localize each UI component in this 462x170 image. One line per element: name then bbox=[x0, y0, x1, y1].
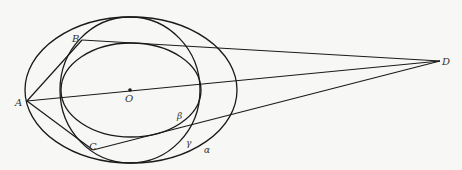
label-O: O bbox=[125, 93, 133, 104]
segment-AB bbox=[27, 40, 82, 101]
label-beta: β bbox=[176, 111, 182, 121]
diagram-svg: A B C D O β γ α bbox=[0, 0, 462, 170]
geometry-diagram: A B C D O β γ α bbox=[0, 0, 462, 170]
label-alpha: α bbox=[204, 145, 210, 155]
label-B: B bbox=[71, 33, 79, 44]
label-A: A bbox=[14, 97, 22, 108]
label-C: C bbox=[89, 141, 97, 152]
segment-CD bbox=[93, 61, 440, 150]
center-point-O bbox=[128, 88, 132, 92]
segment-AD bbox=[27, 61, 440, 101]
label-gamma: γ bbox=[186, 138, 192, 148]
segment-BD bbox=[82, 40, 440, 61]
label-D: D bbox=[441, 56, 450, 67]
segment-AC bbox=[27, 101, 93, 150]
